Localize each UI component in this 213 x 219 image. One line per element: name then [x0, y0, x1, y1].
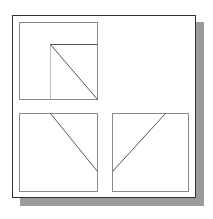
side-view-line-0 [113, 114, 166, 172]
top-view [20, 23, 98, 100]
orthographic-views [0, 0, 213, 219]
top-view-border [20, 23, 98, 100]
front-view-line-0 [51, 114, 98, 172]
front-view-border [20, 114, 98, 192]
front-view [20, 114, 98, 192]
side-view [113, 114, 189, 192]
top-view-line-2 [51, 45, 98, 100]
side-view-border [113, 114, 189, 192]
